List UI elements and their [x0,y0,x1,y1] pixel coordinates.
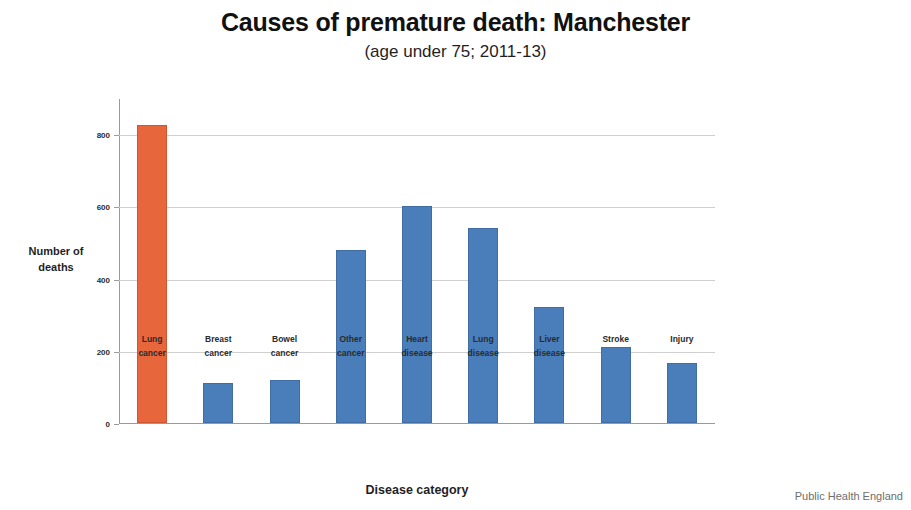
x-axis-tick-label-line: disease [386,346,448,360]
bar-liver-disease [534,307,564,423]
x-axis-tick-label-line: Bowel [254,332,316,346]
bar-bowel-cancer [270,380,300,423]
y-axis-tick-label: 600 [97,203,110,212]
x-axis-title: Disease category [119,483,715,497]
y-axis-tick [114,207,119,208]
bar-breast-cancer [203,383,233,423]
x-axis-tick-label: Injury [651,332,713,346]
x-axis-tick-label-line: Liver [518,332,580,346]
y-axis-tick-label: 400 [97,275,110,284]
x-axis-tick-label-line: Lung [121,332,183,346]
x-axis-tick-label-line: Breast [187,332,249,346]
x-axis-tick-label-line: Lung [452,332,514,346]
x-axis-tick-label: Breastcancer [187,332,249,360]
x-axis-tick-label: Heartdisease [386,332,448,360]
source-credit: Public Health England [795,490,903,502]
x-axis-tick-label-line: cancer [121,346,183,360]
x-axis-tick-label-line: cancer [187,346,249,360]
y-axis-tick-label: 800 [97,131,110,140]
x-axis-tick-label: Stroke [585,332,647,346]
bar-lung-cancer [137,125,167,423]
y-axis-tick [114,424,119,425]
x-axis-tick-label-line: Other [320,332,382,346]
x-axis-line [119,423,715,424]
x-axis-tick-label-line: Stroke [585,332,647,346]
x-axis-tick-label: Liverdisease [518,332,580,360]
y-axis-tick-label: 0 [106,420,110,429]
bar-injury [667,363,697,423]
y-axis-line [119,99,120,424]
x-axis-tick-label-line: Injury [651,332,713,346]
x-axis-tick-label-line: cancer [320,346,382,360]
plot-area: 0200400600800 [119,99,715,424]
gridline [119,135,715,136]
bar-stroke [601,347,631,423]
x-axis-tick-label-line: disease [518,346,580,360]
y-axis-tick [114,135,119,136]
x-axis-tick-label-line: disease [452,346,514,360]
x-axis-tick-label: Bowelcancer [254,332,316,360]
x-axis-tick-label: Lungdisease [452,332,514,360]
x-axis-tick-label-line: Heart [386,332,448,346]
chart-title: Causes of premature death: Manchester [0,8,911,37]
x-axis-tick-label: Othercancer [320,332,382,360]
chart-figure: Causes of premature death: Manchester (a… [0,0,911,510]
y-axis-tick [114,280,119,281]
bar-lung-disease [468,228,498,423]
y-axis-title: Number of deaths [10,243,102,275]
x-axis-tick-label-line: cancer [254,346,316,360]
chart-subtitle: (age under 75; 2011-13) [0,42,911,62]
x-axis-tick-label: Lungcancer [121,332,183,360]
y-axis-tick [114,352,119,353]
y-axis-tick-label: 200 [97,347,110,356]
bar-heart-disease [402,206,432,423]
